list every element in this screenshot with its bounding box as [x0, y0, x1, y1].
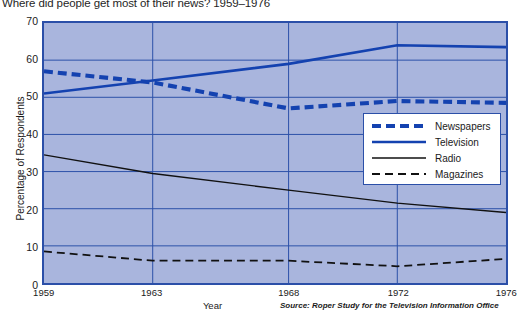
legend-label: Newspapers	[435, 121, 491, 132]
legend-label: Television	[435, 137, 479, 148]
legend-swatch-magazines-icon	[371, 168, 427, 180]
source-note: Source: Roper Study for the Television I…	[280, 301, 499, 310]
legend-item-newspapers[interactable]: Newspapers	[364, 118, 500, 134]
x-axis-tick-label: 1972	[388, 287, 409, 298]
series-line-newspapers	[44, 71, 506, 108]
y-axis-tick-label: 20	[4, 204, 38, 216]
y-axis-tick-label: 70	[4, 15, 38, 27]
legend-swatch-newspapers-icon	[371, 120, 427, 132]
x-axis-tick-label: 1963	[141, 287, 162, 298]
chart-root: Where did people get most of their news?…	[0, 0, 521, 317]
series-line-television	[44, 45, 506, 93]
x-axis-tick-labels: 19591963196819721976	[42, 287, 508, 301]
legend-item-magazines[interactable]: Magazines	[364, 166, 500, 182]
legend-swatch-television-icon	[371, 136, 427, 148]
chart-title: Where did people get most of their news?…	[2, 0, 270, 9]
legend-label: Magazines	[435, 169, 483, 180]
legend-item-radio[interactable]: Radio	[364, 150, 500, 166]
chart-legend: NewspapersTelevisionRadioMagazines	[363, 113, 501, 185]
y-axis-tick-label: 40	[4, 128, 38, 140]
x-axis-tick-label: 1959	[33, 287, 54, 298]
legend-item-television[interactable]: Television	[364, 134, 500, 150]
legend-swatch-radio-icon	[371, 152, 427, 164]
y-axis-tick-label: 50	[4, 90, 38, 102]
y-axis-tick-label: 60	[4, 53, 38, 65]
legend-label: Radio	[435, 153, 461, 164]
x-axis-tick-label: 1968	[278, 287, 299, 298]
y-axis-tick-label: 30	[4, 166, 38, 178]
x-axis-tick-label: 1976	[496, 287, 517, 298]
series-line-magazines	[44, 251, 506, 266]
y-axis-tick-labels: 010203040506070	[0, 21, 38, 285]
y-axis-tick-label: 10	[4, 241, 38, 253]
